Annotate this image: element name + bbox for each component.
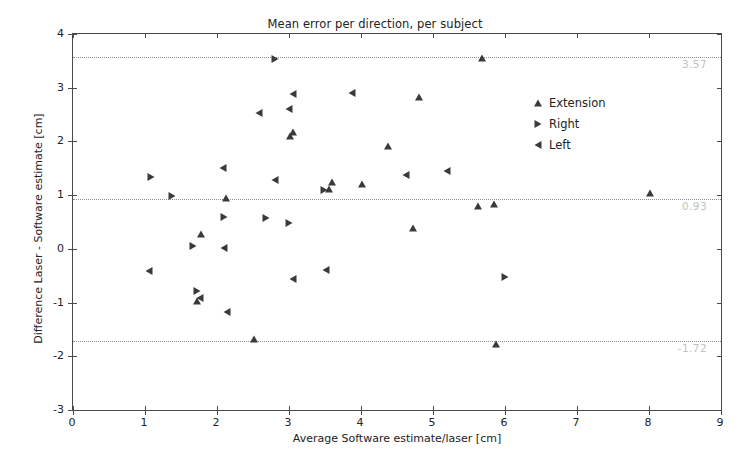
data-point-left [271, 176, 278, 184]
x-tick-top [721, 34, 722, 38]
x-tick [217, 410, 218, 415]
y-tick-label: -1 [53, 295, 64, 308]
x-tick-top [649, 34, 650, 38]
y-tick-inner [73, 303, 77, 304]
x-tick-inner [721, 406, 722, 410]
triangle-up-icon [534, 99, 542, 106]
x-tick-inner [433, 406, 434, 410]
data-point-right [262, 214, 269, 222]
x-tick [505, 410, 506, 415]
y-tick-inner [73, 141, 77, 142]
y-tick-label: 3 [57, 80, 64, 93]
data-point-right [286, 219, 293, 227]
y-tick-right [717, 249, 721, 250]
x-tick [361, 410, 362, 415]
y-tick-label: 1 [57, 188, 64, 201]
triangle-left-icon [535, 141, 542, 149]
reference-line-lower-limit-of-agreement [73, 341, 721, 342]
x-tick-top [289, 34, 290, 38]
data-point-left [289, 275, 296, 283]
plot-area: 3.570.93-1.72 [72, 33, 722, 411]
x-tick-inner [649, 406, 650, 410]
data-point-extension [328, 179, 336, 186]
chart-title: Mean error per direction, per subject [0, 17, 750, 31]
x-tick-top [505, 34, 506, 38]
data-point-extension [415, 94, 423, 101]
x-tick-top [145, 34, 146, 38]
data-point-right [502, 273, 509, 281]
y-tick-label: -3 [53, 403, 64, 416]
reference-line-label-mean-bias: 0.93 [682, 200, 707, 212]
data-point-right [320, 186, 327, 194]
x-tick [577, 410, 578, 415]
data-point-extension [478, 55, 486, 62]
data-point-right [271, 55, 278, 63]
reference-line-label-upper-limit-of-agreement: 3.57 [682, 58, 707, 70]
data-point-left [145, 267, 152, 275]
data-point-left [196, 294, 203, 302]
data-point-extension [222, 195, 230, 202]
x-tick-inner [505, 406, 506, 410]
x-tick-label: 5 [429, 416, 436, 429]
x-tick-label: 1 [141, 416, 148, 429]
reference-line-label-lower-limit-of-agreement: -1.72 [678, 342, 707, 354]
data-point-right [221, 213, 228, 221]
x-tick [145, 410, 146, 415]
legend-item-label: Left [549, 138, 571, 152]
y-tick-inner [73, 249, 77, 250]
data-point-extension [646, 189, 654, 196]
legend-item-extension[interactable]: Extension [527, 92, 657, 113]
x-tick-inner [577, 406, 578, 410]
y-tick-right [717, 141, 721, 142]
legend-marker-triangle-left-icon [527, 138, 549, 152]
x-tick-label: 2 [213, 416, 220, 429]
legend-marker-triangle-up-icon [527, 96, 549, 110]
data-point-right [169, 192, 176, 200]
data-point-left [219, 164, 226, 172]
data-point-left [289, 90, 296, 98]
data-point-extension [358, 180, 366, 187]
x-tick-top [577, 34, 578, 38]
y-tick-label: -2 [53, 349, 64, 362]
legend-marker-triangle-right-icon [527, 117, 549, 131]
data-point-left [221, 244, 228, 252]
y-tick-right [717, 34, 721, 35]
x-tick-label: 8 [645, 416, 652, 429]
y-tick-inner [73, 356, 77, 357]
x-tick-inner [289, 406, 290, 410]
x-tick-top [217, 34, 218, 38]
legend-item-label: Right [549, 117, 579, 131]
triangle-right-icon [535, 120, 542, 128]
data-point-extension [250, 336, 258, 343]
data-point-left [402, 171, 409, 179]
x-tick-label: 0 [69, 416, 76, 429]
y-tick-right [717, 195, 721, 196]
data-point-extension [197, 231, 205, 238]
y-tick-inner [73, 88, 77, 89]
data-point-extension [409, 225, 417, 232]
data-point-extension [492, 341, 500, 348]
x-tick-label: 7 [573, 416, 580, 429]
y-axis-label: Difference Laser - Software estimate [cm… [32, 109, 45, 349]
x-tick [649, 410, 650, 415]
x-tick-top [361, 34, 362, 38]
data-point-left [444, 167, 451, 175]
x-tick-label: 3 [285, 416, 292, 429]
legend-item-left[interactable]: Left [527, 134, 657, 155]
data-point-right [189, 242, 196, 250]
x-tick-inner [145, 406, 146, 410]
reference-line-upper-limit-of-agreement [73, 57, 721, 58]
data-layer: 3.570.93-1.72 [73, 34, 721, 410]
y-tick-label: 0 [57, 241, 64, 254]
scatter-plot-figure: Mean error per direction, per subject 3.… [0, 0, 750, 463]
x-tick [721, 410, 722, 415]
x-axis-label: Average Software estimate/laser [cm] [72, 432, 722, 445]
y-tick-right [717, 303, 721, 304]
y-tick-inner [73, 410, 77, 411]
x-tick-label: 9 [717, 416, 724, 429]
y-tick-inner [73, 195, 77, 196]
data-point-extension [474, 203, 482, 210]
y-tick-right [717, 410, 721, 411]
x-tick-label: 6 [501, 416, 508, 429]
legend-item-right[interactable]: Right [527, 113, 657, 134]
